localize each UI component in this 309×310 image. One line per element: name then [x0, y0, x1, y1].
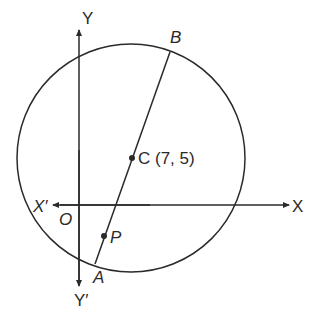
- x-neg-axis-label: X′: [32, 197, 48, 216]
- y-axis-label: Y: [82, 9, 93, 28]
- point-c: [129, 155, 135, 161]
- y-neg-axis-label: Y′: [74, 291, 89, 310]
- origin-label: O: [59, 210, 72, 229]
- x-axis-label: X: [292, 197, 303, 216]
- point-p-label: P: [110, 228, 122, 247]
- point-b-label: B: [170, 28, 181, 47]
- point-p: [101, 233, 107, 239]
- circle-diagram: Y Y′ X X′ O C (7, 5) B A P: [0, 0, 309, 310]
- center-label: C (7, 5): [138, 149, 195, 168]
- point-a-label: A: [92, 268, 104, 287]
